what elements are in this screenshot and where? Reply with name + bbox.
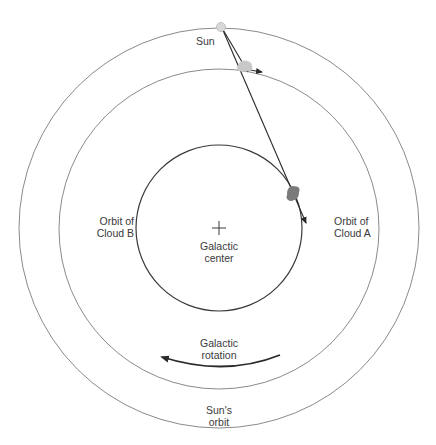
orbit-cloud-a-label: Orbit of Cloud A bbox=[334, 215, 371, 239]
galactic-rotation-label-line1: Galactic bbox=[194, 337, 244, 349]
sun-icon bbox=[217, 23, 226, 32]
sun-orbit-label: Sun's orbit bbox=[194, 404, 244, 428]
cloud-middle-motion-arrow bbox=[250, 70, 262, 72]
orbit-cloud-b-label-line2: Cloud B bbox=[92, 227, 134, 239]
orbit-cloud-b-label-line1: Orbit of bbox=[92, 215, 134, 227]
galactic-center-cross-icon bbox=[212, 221, 226, 235]
galactic-center-label-line2: center bbox=[194, 252, 244, 264]
sun-orbit-label-line2: orbit bbox=[194, 416, 244, 428]
orbit-cloud-b-label: Orbit of Cloud B bbox=[92, 215, 134, 239]
sun-orbit-label-line1: Sun's bbox=[194, 404, 244, 416]
orbit-cloud-a-label-line2: Cloud A bbox=[334, 227, 371, 239]
cloud-light-blob-icon bbox=[237, 61, 253, 72]
sun-label: Sun bbox=[196, 35, 215, 47]
galactic-rotation-label-line2: rotation bbox=[194, 349, 244, 361]
orbit-cloud-a-label-line1: Orbit of bbox=[334, 215, 371, 227]
cloud-dark-blob-icon bbox=[287, 186, 300, 201]
galactic-rotation-label: Galactic rotation bbox=[194, 337, 244, 361]
galactic-center-label-line1: Galactic bbox=[194, 240, 244, 252]
galactic-center-label: Galactic center bbox=[194, 240, 244, 264]
